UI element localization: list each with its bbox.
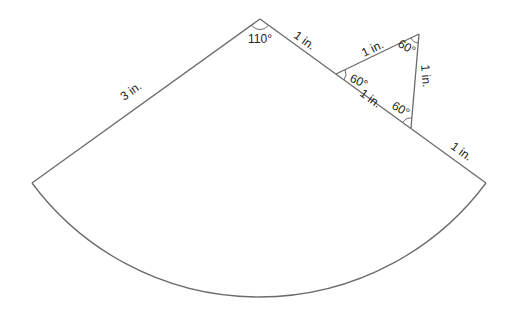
triangle-top-angle-label: 60° (396, 36, 419, 57)
triangle-bottom-angle-label: 60° (390, 98, 413, 119)
right-lower-segment-label: 1 in. (448, 139, 475, 164)
sector-triangle-diagram: 110° 3 in. 1 in. 1 in. 1 in. 1 in. 1 in.… (0, 0, 517, 322)
apex-angle-label: 110° (248, 32, 272, 46)
left-radius-label: 3 in. (118, 79, 145, 104)
left-radius (32, 19, 260, 183)
triangle-left-angle-arc (344, 70, 346, 80)
apex-angle-arc (252, 25, 269, 29)
sector-arc (32, 183, 486, 297)
diagram-svg: 110° 3 in. 1 in. 1 in. 1 in. 1 in. 1 in.… (0, 0, 517, 322)
right-upper-segment-label: 1 in. (291, 28, 318, 53)
triangle-right-side-label: 1 in. (418, 64, 434, 88)
